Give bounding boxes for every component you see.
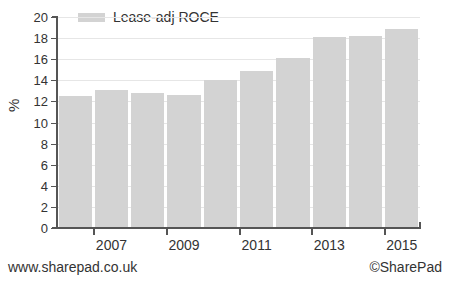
x-tick-mark-2015 [384, 228, 386, 235]
y-tick-mark-6 [51, 165, 57, 166]
bar-2006 [59, 96, 92, 228]
x-tick-label-2011: 2011 [242, 238, 272, 252]
bar-2008 [131, 93, 164, 228]
bar-2010 [204, 80, 237, 228]
x-tick-mark-2011 [239, 228, 241, 235]
x-axis-cap-right [419, 222, 421, 229]
footer-copyright: ©SharePad [369, 260, 442, 274]
y-tick-mark-14 [51, 80, 57, 81]
x-tick-mark-2007 [93, 228, 95, 235]
bar-2012 [276, 58, 309, 228]
x-tick-mark-2009 [166, 228, 168, 235]
y-axis-title: % [6, 99, 21, 112]
y-tick-label-20: 20 [34, 11, 48, 24]
y-tick-mark-16 [51, 59, 57, 60]
bar-2007 [95, 90, 128, 228]
x-tick-label-2015: 2015 [386, 238, 417, 252]
y-tick-mark-10 [51, 123, 57, 124]
bar-2009 [167, 95, 200, 228]
y-tick-label-6: 6 [41, 159, 48, 172]
chart-figure: Lease-adj ROCE % 20181614121086420 20072… [0, 0, 450, 284]
x-tick-label-2009: 2009 [168, 238, 199, 252]
gridline-20 [57, 17, 420, 18]
bar-2014 [349, 36, 382, 228]
y-tick-mark-20 [51, 17, 57, 18]
footer-website: www.sharepad.co.uk [8, 260, 137, 274]
x-tick-label-2007: 2007 [96, 238, 127, 252]
bar-2011 [240, 71, 273, 228]
bar-2015 [385, 29, 418, 228]
y-tick-label-2: 2 [41, 201, 48, 214]
y-tick-mark-12 [51, 101, 57, 102]
y-tick-mark-8 [51, 144, 57, 145]
y-tick-label-14: 14 [34, 74, 48, 87]
plot-area [57, 17, 420, 228]
y-tick-label-18: 18 [34, 32, 48, 45]
y-tick-label-12: 12 [34, 95, 48, 108]
x-tick-label-2013: 2013 [314, 238, 345, 252]
y-tick-label-16: 16 [34, 53, 48, 66]
y-tick-mark-4 [51, 186, 57, 187]
y-tick-mark-2 [51, 207, 57, 208]
y-tick-label-0: 0 [41, 222, 48, 235]
y-tick-label-4: 4 [41, 180, 48, 193]
y-tick-label-10: 10 [34, 117, 48, 130]
x-tick-mark-2013 [311, 228, 313, 235]
bar-2013 [313, 37, 346, 228]
y-tick-mark-18 [51, 38, 57, 39]
y-tick-label-8: 8 [41, 138, 48, 151]
y-tick-mark-0 [51, 228, 57, 229]
